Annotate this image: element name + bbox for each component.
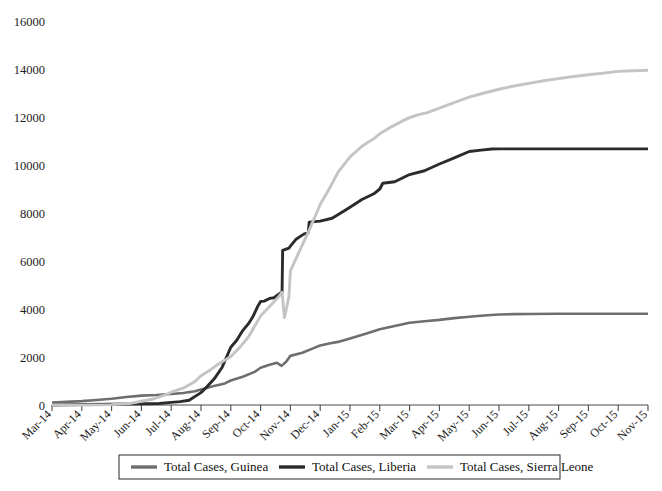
chart-canvas: 0200040006000800010000120001400016000 Ma… [0, 0, 662, 491]
x-tick-label: Jan-15 [320, 407, 353, 440]
x-tick-label: Feb-15 [348, 407, 382, 441]
x-tick-label: Oct-14 [229, 407, 262, 440]
y-tick-label: 8000 [20, 207, 45, 221]
series-lines [52, 70, 648, 405]
y-tick-label: 4000 [20, 303, 45, 317]
legend-label: Total Cases, Guinea [164, 459, 268, 474]
legend-items: Total Cases, GuineaTotal Cases, LiberiaT… [131, 459, 594, 474]
y-tick-label: 6000 [20, 255, 45, 269]
x-tick-label: Mar-14 [19, 407, 54, 442]
x-tick-label: Oct-15 [587, 407, 620, 440]
x-tick-label: Nov-14 [257, 407, 293, 443]
x-tick-label: Dec-14 [287, 407, 322, 442]
y-tick-label: 14000 [14, 63, 45, 77]
x-tick-label: Mar-15 [377, 407, 412, 442]
series-line-total-cases-liberia [52, 149, 648, 405]
x-tick-label: Sep-15 [557, 407, 591, 441]
x-tick-label: May-15 [435, 407, 472, 444]
x-tick-label: Jun-14 [111, 407, 144, 440]
x-tick-label: Nov-15 [614, 407, 650, 443]
x-tick-label: Sep-14 [199, 407, 233, 441]
x-tick-label: Aug-14 [167, 407, 203, 443]
y-axis-tick-labels: 0200040006000800010000120001400016000 [14, 15, 45, 413]
series-line-total-cases-sierra-leone [52, 70, 648, 405]
y-tick-label: 2000 [20, 351, 45, 365]
x-axis-tick-labels: Mar-14Apr-14May-14Jun-14Jul-14Aug-14Sep-… [19, 407, 650, 444]
series-line-total-cases-guinea [52, 314, 648, 403]
x-axis-tick-marks [52, 405, 648, 411]
chart-legend: Total Cases, GuineaTotal Cases, LiberiaT… [119, 455, 594, 479]
x-tick-label: Aug-15 [525, 407, 561, 443]
y-tick-label: 12000 [14, 111, 45, 125]
legend-label: Total Cases, Liberia [312, 459, 416, 474]
legend-label: Total Cases, Sierra Leone [460, 459, 594, 474]
y-tick-label: 10000 [14, 159, 45, 173]
x-tick-label: Jun-15 [468, 407, 501, 440]
ebola-cumulative-cases-chart: 0200040006000800010000120001400016000 Ma… [0, 0, 662, 491]
y-tick-label: 16000 [14, 15, 45, 29]
x-tick-label: May-14 [77, 407, 114, 444]
